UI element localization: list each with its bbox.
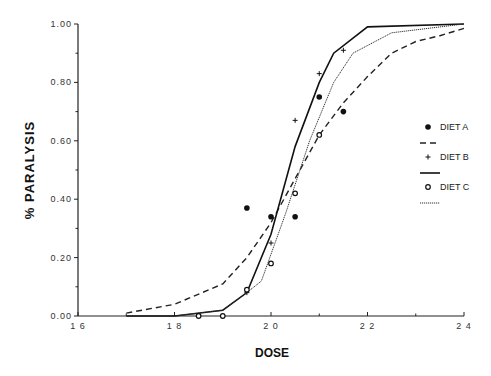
data-point: [269, 241, 274, 246]
data-point: [292, 214, 298, 220]
fit-curves: [126, 24, 464, 316]
y-tick-label: 0.20: [50, 253, 72, 263]
data-point: [293, 191, 298, 196]
y-axis-label: % PARALYSIS: [22, 121, 37, 219]
data-point: [317, 133, 322, 138]
x-tick-label: 2 4: [456, 321, 472, 331]
legend-marker-icon: [425, 124, 431, 130]
data-point: [244, 205, 250, 211]
legend-label: DIET B: [440, 152, 469, 162]
data-point: [268, 214, 274, 220]
y-tick-label: 0.60: [50, 136, 72, 146]
dose-response-chart: 1 61 82 02 22 40.000.200.400.600.801.00 …: [0, 0, 491, 376]
legend-label: DIET C: [440, 182, 470, 192]
x-tick-label: 2 2: [360, 321, 376, 331]
legend: DIET ADIET BDIET C: [420, 122, 470, 203]
y-tick-label: 1.00: [50, 19, 72, 29]
fit-curve-diet-b: [126, 24, 464, 316]
axes: 1 61 82 02 22 40.000.200.400.600.801.00: [50, 19, 471, 331]
x-tick-label: 2 0: [263, 321, 279, 331]
y-tick-label: 0.80: [50, 77, 72, 87]
x-tick-label: 1 8: [167, 321, 183, 331]
data-point: [341, 109, 347, 115]
data-point: [269, 261, 274, 266]
legend-item-diet-c: DIET C: [420, 182, 470, 203]
data-point: [245, 287, 250, 292]
y-tick-label: 0.40: [50, 194, 72, 204]
y-tick-label: 0.00: [50, 311, 72, 321]
legend-item-diet-a: DIET A: [420, 122, 468, 143]
legend-marker-icon: [426, 185, 431, 190]
x-axis-label: DOSE: [255, 346, 289, 360]
data-point: [220, 314, 225, 319]
data-point: [341, 48, 346, 53]
legend-marker-icon: [426, 155, 431, 160]
fit-curve-diet-a: [126, 28, 464, 313]
data-point: [316, 94, 322, 100]
data-points: [196, 48, 346, 319]
data-point: [293, 118, 298, 123]
legend-label: DIET A: [440, 122, 468, 132]
x-tick-label: 1 6: [70, 321, 86, 331]
fit-curve-diet-c: [126, 24, 464, 316]
data-point: [317, 71, 322, 76]
legend-item-diet-b: DIET B: [420, 152, 469, 173]
data-point: [196, 314, 201, 319]
